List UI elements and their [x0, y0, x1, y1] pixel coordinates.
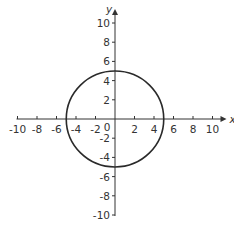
- x-tick-label: 10: [206, 123, 219, 135]
- y-tick-label: -2: [100, 132, 110, 144]
- y-tick-label: -8: [100, 190, 110, 202]
- x-tick-label: 4: [151, 123, 158, 135]
- y-tick-label: 6: [103, 55, 110, 67]
- x-tick-label: 8: [190, 123, 197, 135]
- x-axis-label: x: [229, 113, 235, 125]
- y-tick-label: -10: [93, 209, 110, 221]
- x-tick-label: -6: [51, 123, 62, 135]
- y-tick-label: 4: [103, 75, 110, 87]
- x-tick-label: 2: [131, 123, 138, 135]
- x-tick-label: -4: [71, 123, 82, 135]
- y-tick-label: -4: [100, 151, 111, 163]
- x-tick-label: -8: [32, 123, 42, 135]
- origin-label: 0: [104, 121, 111, 133]
- y-axis-arrow: [112, 9, 118, 15]
- chart: -10-8-6-4-2246810108642-2-4-6-8-10 x y 0: [0, 0, 234, 227]
- y-tick-label: 10: [97, 17, 110, 29]
- y-tick-label: 2: [103, 94, 110, 106]
- y-axis-label: y: [105, 3, 113, 15]
- x-tick-label: -10: [9, 123, 26, 135]
- y-tick-label: -6: [100, 171, 111, 183]
- axes: [17, 9, 227, 216]
- x-axis-arrow: [221, 116, 227, 122]
- y-tick-label: 8: [103, 36, 110, 48]
- x-tick-label: 6: [170, 123, 177, 135]
